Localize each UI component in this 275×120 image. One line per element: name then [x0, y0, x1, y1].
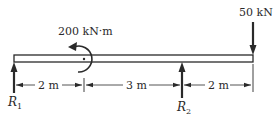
moment-arrowhead-icon — [68, 42, 77, 51]
reaction-r2: R2 — [176, 62, 191, 116]
dimension-2-label: 3 m — [126, 79, 147, 92]
applied-moment: 200 kN·m — [58, 25, 113, 72]
dimension-1: 2 m — [16, 79, 82, 92]
moment-center-dot — [83, 58, 85, 60]
moment-label: 200 kN·m — [58, 25, 113, 38]
beam — [14, 55, 253, 62]
reaction-r2-arrowhead-icon — [179, 62, 186, 72]
dimension-3: 2 m — [184, 79, 251, 92]
reaction-r1-label: R1 — [7, 95, 22, 111]
reaction-r1: R1 — [7, 62, 22, 111]
beam-diagram: 200 kN·m 50 kN R1 R2 2 m 3 m 2 m — [0, 0, 275, 120]
point-load-arrowhead-icon — [250, 45, 257, 55]
dimension-3-label: 2 m — [208, 79, 229, 92]
reaction-r2-label: R2 — [176, 100, 191, 116]
dimension-2: 3 m — [86, 79, 180, 92]
dimension-1-label: 2 m — [38, 79, 59, 92]
point-load-label: 50 kN — [239, 6, 273, 19]
point-load: 50 kN — [239, 6, 273, 55]
reaction-r1-arrowhead-icon — [11, 62, 18, 72]
